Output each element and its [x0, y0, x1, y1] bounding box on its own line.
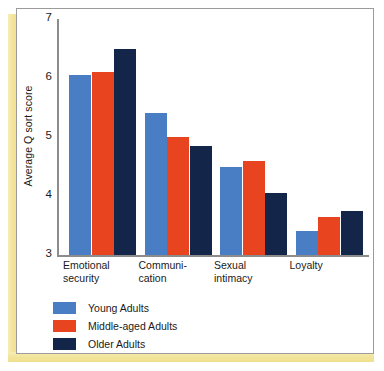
bar — [318, 217, 340, 255]
bar — [296, 231, 318, 255]
bar — [190, 146, 212, 255]
figure-root: Average Q sort score 34567 Emotional sec… — [0, 0, 384, 371]
legend-swatch — [53, 320, 76, 332]
legend-item: Middle-aged Adults — [53, 317, 177, 334]
bar — [167, 137, 189, 255]
category-label: Communi- cation — [139, 259, 187, 284]
legend-swatch — [53, 302, 76, 314]
bar — [243, 161, 265, 255]
bar — [220, 167, 242, 256]
chart-legend: Young AdultsMiddle-aged AdultsOlder Adul… — [53, 299, 177, 353]
legend-label: Middle-aged Adults — [88, 320, 177, 332]
bar — [92, 72, 114, 255]
legend-item: Older Adults — [53, 335, 177, 352]
legend-label: Older Adults — [88, 338, 145, 350]
legend-item: Young Adults — [53, 299, 177, 316]
legend-label: Young Adults — [88, 302, 149, 314]
plot-area: Average Q sort score 34567 Emotional sec… — [0, 0, 384, 371]
bar — [341, 211, 363, 255]
category-label: Emotional security — [63, 259, 110, 284]
category-label: Loyalty — [290, 259, 323, 272]
bar — [265, 193, 287, 255]
bar — [145, 113, 167, 255]
bar — [69, 75, 91, 255]
legend-swatch — [53, 338, 76, 350]
category-label: Sexual intimacy — [214, 259, 253, 284]
bar — [114, 49, 136, 256]
